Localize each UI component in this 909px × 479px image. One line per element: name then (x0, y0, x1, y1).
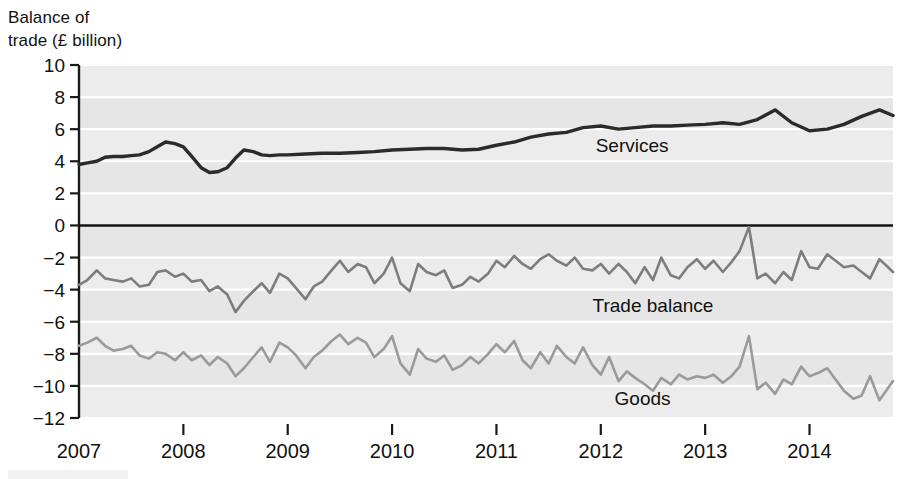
y-tick-label: −4 (43, 280, 65, 301)
background-band (79, 225, 893, 257)
y-tick-label: 10 (44, 55, 65, 76)
y-tick-label: 4 (54, 151, 65, 172)
x-tick-label: 2014 (787, 440, 832, 462)
y-tick-label: −2 (43, 248, 65, 269)
background-bands (79, 65, 893, 418)
background-band (79, 258, 893, 290)
x-tick-label: 2010 (370, 440, 415, 462)
balance-of-trade-chart: Balance of trade (£ billion) 1086420−2−4… (0, 0, 909, 479)
y-tick-label: 8 (54, 87, 65, 108)
y-axis-tick-labels: 1086420−2−4−6−8−10−12 (33, 55, 66, 429)
x-tick-label: 2013 (683, 440, 728, 462)
x-tick-label: 2009 (265, 440, 310, 462)
background-band (79, 65, 893, 97)
background-band (79, 129, 893, 161)
series-label-trade-balance: Trade balance (593, 295, 714, 316)
series-label-goods: Goods (615, 388, 671, 409)
chart-plot-area: 1086420−2−4−6−8−10−12 200720082009201020… (0, 0, 909, 479)
background-band (79, 322, 893, 354)
y-tick-label: −12 (33, 408, 65, 429)
x-tick-label: 2007 (57, 440, 102, 462)
y-tick-label: −8 (43, 344, 65, 365)
background-band (79, 354, 893, 386)
background-band (79, 193, 893, 225)
x-tick-label: 2008 (161, 440, 206, 462)
x-tick-label: 2011 (475, 440, 518, 462)
x-axis-tick-labels: 20072008200920102011201220132014 (57, 440, 832, 462)
series-label-services: Services (596, 135, 669, 156)
x-tick-label: 2012 (579, 440, 624, 462)
y-tick-label: −10 (33, 376, 65, 397)
y-tick-label: 2 (54, 183, 65, 204)
y-tick-label: 0 (54, 215, 65, 236)
y-tick-label: −6 (43, 312, 65, 333)
y-tick-label: 6 (54, 119, 65, 140)
page-artifact (8, 470, 128, 479)
background-band (79, 290, 893, 322)
